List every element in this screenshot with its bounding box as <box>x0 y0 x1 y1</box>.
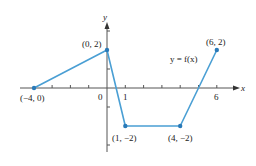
y-axis-arrow-icon <box>105 22 110 29</box>
label-4-neg2: (4, −2) <box>168 133 193 143</box>
function-label: y = f(x) <box>170 54 198 64</box>
tick-label-1: 1 <box>123 92 128 102</box>
x-axis <box>20 85 240 91</box>
tick-label-6: 6 <box>214 92 219 102</box>
label-0-2: (0, 2) <box>82 39 102 49</box>
x-axis-label: x <box>240 83 245 93</box>
y-axis-label: y <box>102 12 107 22</box>
x-axis-arrow-icon <box>233 86 240 91</box>
y-axis <box>105 22 111 152</box>
point-0-2 <box>105 48 109 52</box>
point-neg4-0 <box>32 86 36 90</box>
point-1-neg2 <box>123 124 127 128</box>
label-6-2: (6, 2) <box>206 37 226 47</box>
point-6-2 <box>215 48 219 52</box>
point-4-neg2 <box>178 124 182 128</box>
label-1-neg2: (1, −2) <box>112 133 137 143</box>
origin-label: 0 <box>98 92 103 102</box>
label-neg4-0: (−4, 0) <box>20 93 45 103</box>
function-graph: y x 0 1 6 y = f(x) (−4, 0) (0, 2) (1, −2… <box>0 0 256 166</box>
